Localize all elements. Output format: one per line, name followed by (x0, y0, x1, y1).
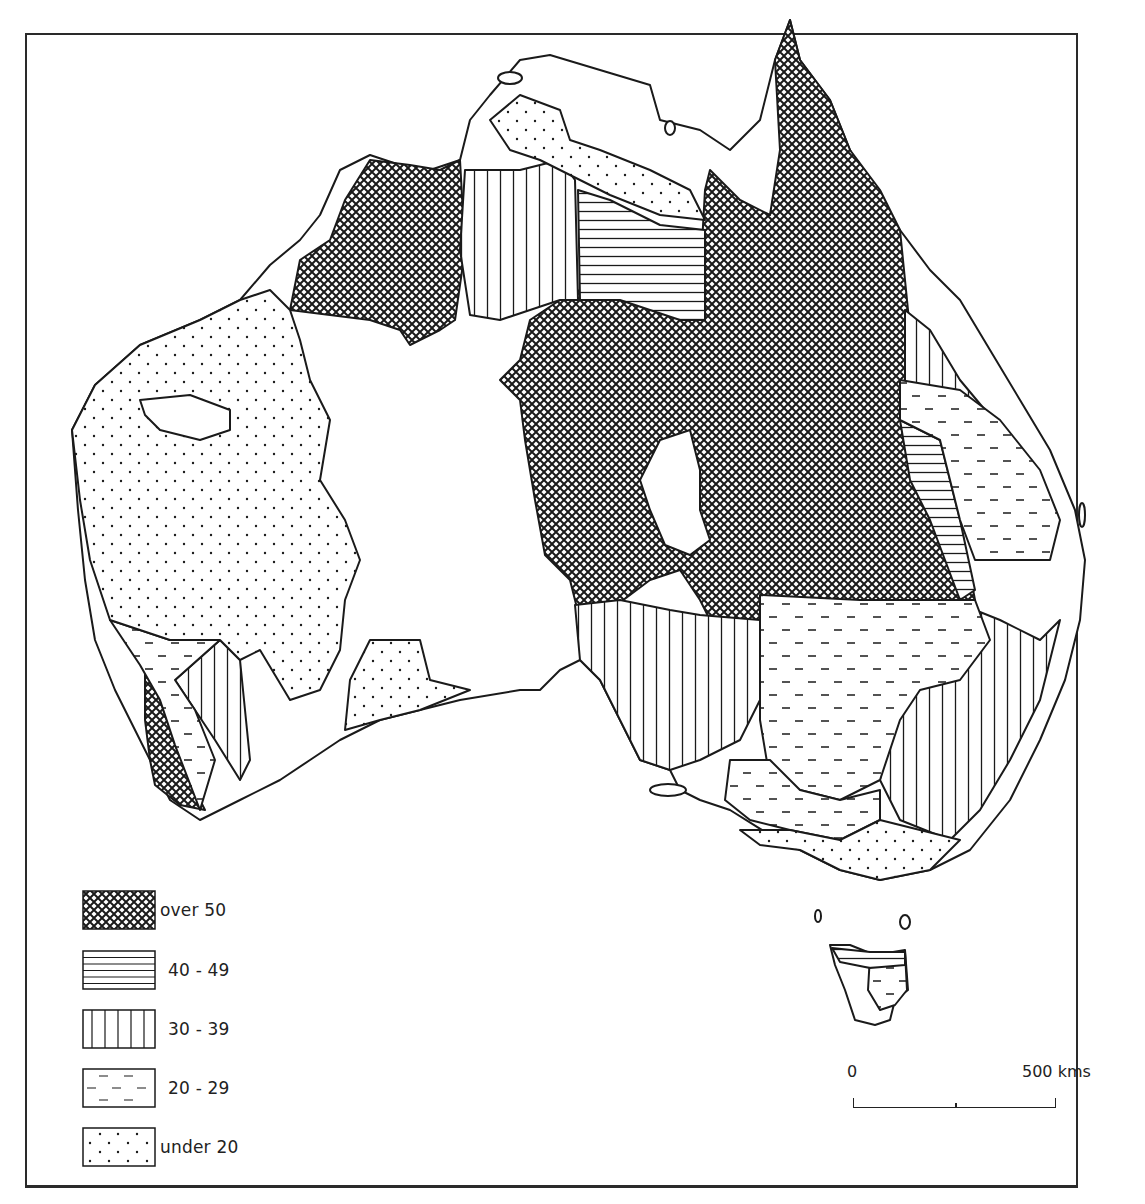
legend-label: under 20 (160, 1137, 238, 1157)
crosshatch-swatch-icon (82, 890, 156, 930)
island-melville (498, 72, 522, 84)
legend-item-30-39: 30 - 39 (82, 1007, 230, 1051)
island-king (815, 910, 821, 922)
legend-label: 30 - 39 (168, 1019, 230, 1039)
legend-label: over 50 (160, 900, 226, 920)
horizontal-lines-swatch-icon (82, 950, 156, 990)
island-flinders (900, 915, 910, 929)
island-kangaroo (650, 784, 686, 796)
dots-swatch-icon (82, 1127, 156, 1167)
dashes-swatch-icon (82, 1068, 156, 1108)
legend-item-20-29: 20 - 29 (82, 1066, 230, 1110)
vertical-lines-swatch-icon (82, 1009, 156, 1049)
scale-start-label: 0 (847, 1062, 857, 1081)
legend-item-40-49: 40 - 49 (82, 948, 230, 992)
legend-item-over-50: over 50 (82, 888, 226, 932)
legend-label: 40 - 49 (168, 960, 230, 980)
region-30-39-south-central (575, 600, 760, 770)
legend-item-under-20: under 20 (82, 1125, 238, 1169)
island-fraser (1079, 503, 1085, 527)
island-groote (665, 121, 675, 135)
scale-end-label: 500 kms (1022, 1062, 1091, 1081)
scale-bar: 0 500 kms (845, 1062, 1095, 1122)
scale-midpoint-tick (955, 1103, 957, 1108)
region-30-39-north (460, 160, 578, 320)
legend-label: 20 - 29 (168, 1078, 230, 1098)
